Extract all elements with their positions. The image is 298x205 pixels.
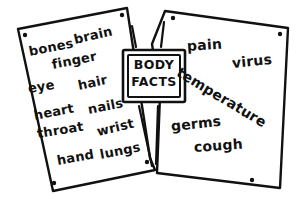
pin-dot-icon xyxy=(120,13,124,17)
body-facts-label-line1: BODY xyxy=(123,58,185,71)
cards-vector-layer xyxy=(0,0,298,205)
pin-dot-icon xyxy=(250,178,254,182)
pin-dot-icon xyxy=(171,16,175,20)
word-pain: pain xyxy=(187,37,223,53)
word-virus: virus xyxy=(231,52,272,70)
body-facts-label-line2: FACTS xyxy=(123,75,185,88)
pin-dot-icon xyxy=(23,33,27,37)
pin-dot-icon xyxy=(52,181,56,185)
body-facts-illustration: bones brain finger eye hair heart nails … xyxy=(0,0,298,205)
word-eye: eye xyxy=(27,78,55,95)
pin-dot-icon xyxy=(145,160,149,164)
pin-dot-icon xyxy=(278,32,282,36)
word-cough: cough xyxy=(194,137,244,154)
